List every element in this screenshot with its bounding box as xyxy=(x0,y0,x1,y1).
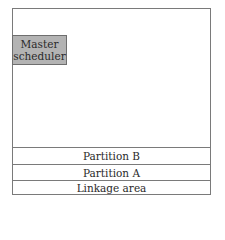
partition-a-label: Partition A xyxy=(83,167,140,179)
master-scheduler-block: Master scheduler xyxy=(12,35,67,65)
partition-a-block: Partition A xyxy=(12,164,211,180)
master-scheduler-label-line2: scheduler xyxy=(13,50,65,62)
partition-b-label: Partition B xyxy=(83,150,140,162)
linkage-area-label: Linkage area xyxy=(77,182,147,194)
linkage-area-block: Linkage area xyxy=(12,180,211,195)
partition-b-block: Partition B xyxy=(12,147,211,164)
master-scheduler-label-line1: Master xyxy=(21,38,59,50)
